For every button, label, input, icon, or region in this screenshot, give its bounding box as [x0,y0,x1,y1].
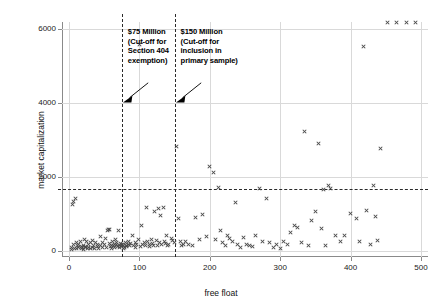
plot-frame [62,22,428,257]
y-tick-mark [58,251,62,252]
annotation-line: (Cut-off for [181,37,243,47]
cutoff-75m [122,14,123,257]
gridline-vertical [351,22,352,257]
x-tick-mark [139,257,140,261]
gridline-horizontal [62,29,428,30]
x-axis-label: free float [0,288,442,298]
annotation-line: inclusion in [181,46,243,56]
x-tick-mark [351,257,352,261]
annotation-line: $150 Million [181,27,243,37]
gridline-horizontal [62,177,428,178]
market-cap-threshold [58,189,428,190]
annotation-line: primary sample) [181,56,243,66]
y-tick-label: 4000 [22,99,62,107]
gridline-vertical [280,22,281,257]
annotation-75-million-arrow-icon [120,80,154,108]
x-tick-mark [280,257,281,261]
x-tick-label: 400 [344,264,357,272]
x-tick-label: 500 [414,264,427,272]
annotation-150-million: $150 Million(Cut-off forinclusion inprim… [181,27,243,65]
x-tick-label: 300 [274,264,287,272]
annotation-150-million-arrow-icon [173,80,207,108]
x-tick-label: 200 [203,264,216,272]
gridline-vertical [69,22,70,257]
gridline-horizontal [62,103,428,104]
x-tick-mark [69,257,70,261]
x-tick-label: 0 [67,264,71,272]
gridline-vertical [421,22,422,257]
y-tick-mark [58,103,62,104]
scatter-plot-figure: market capitalization free float 0200040… [0,0,442,300]
y-tick-mark [58,29,62,30]
x-tick-label: 100 [133,264,146,272]
y-tick-mark [58,177,62,178]
plot-area: 0200040006000 0100200300400500 [62,22,428,257]
y-tick-label: 2000 [22,173,62,181]
x-tick-mark [421,257,422,261]
gridline-horizontal [62,251,428,252]
y-tick-label: 0 [22,247,62,255]
x-tick-mark [210,257,211,261]
y-tick-label: 6000 [22,25,62,33]
